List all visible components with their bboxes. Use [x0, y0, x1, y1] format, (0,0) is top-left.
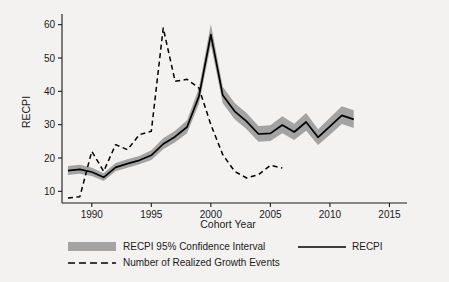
y-tick-label: 10 — [44, 186, 56, 197]
chart-figure: 199019952000200520102015 102030405060 RE… — [0, 0, 449, 282]
legend-swatch-confidence-interval — [68, 242, 116, 251]
x-tick-label: 2010 — [319, 209, 342, 220]
y-tick-label: 60 — [44, 19, 56, 30]
y-axis-title: RECPI — [20, 96, 32, 128]
x-tick-label: 2005 — [259, 209, 282, 220]
x-tick-label: 1995 — [140, 209, 163, 220]
y-tick-label: 50 — [44, 53, 56, 64]
plot-background — [0, 0, 449, 282]
legend-label-recpi: RECPI — [352, 241, 383, 252]
legend-label-growth-events: Number of Realized Growth Events — [123, 257, 280, 268]
y-tick-label: 40 — [44, 86, 56, 97]
x-tick-label: 1990 — [81, 209, 104, 220]
recpi-line-chart: 199019952000200520102015 102030405060 RE… — [0, 0, 449, 282]
y-tick-label: 30 — [44, 119, 56, 130]
x-tick-label: 2015 — [378, 209, 401, 220]
x-axis-title: Cohort Year — [200, 218, 256, 230]
y-tick-label: 20 — [44, 153, 56, 164]
legend-label-confidence-interval: RECPI 95% Confidence Interval — [123, 241, 265, 252]
